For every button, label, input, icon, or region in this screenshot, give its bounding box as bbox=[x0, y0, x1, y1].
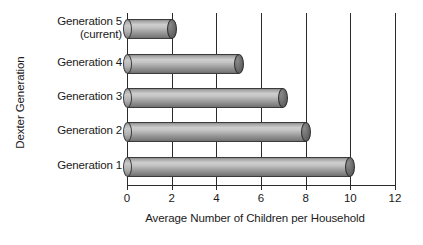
bar-body bbox=[127, 157, 350, 177]
bar-4 bbox=[127, 54, 244, 74]
category-label-generation-5: Generation 5 (current) bbox=[22, 15, 122, 41]
tick-label-2: 2 bbox=[157, 191, 187, 205]
bar-end-cap bbox=[301, 122, 311, 142]
bar-chart: Dexter Generation Generation 5 (current)… bbox=[0, 0, 423, 245]
bar-3 bbox=[127, 88, 288, 108]
category-label-generation-2: Generation 2 bbox=[22, 124, 122, 137]
tick-label-6: 6 bbox=[246, 191, 276, 205]
bar-left-cap bbox=[123, 88, 132, 108]
category-axis-labels: Generation 5 (current) Generation 4 Gene… bbox=[24, 13, 124, 185]
tick-mark-8 bbox=[306, 185, 307, 190]
tick-label-12: 12 bbox=[380, 191, 410, 205]
bar-left-cap bbox=[123, 157, 132, 177]
bar-left-cap bbox=[123, 54, 132, 74]
bar-body bbox=[127, 88, 283, 108]
tick-mark-0 bbox=[127, 185, 128, 190]
bar-body bbox=[127, 19, 172, 39]
bar-1 bbox=[127, 157, 355, 177]
x-axis-title: Average Number of Children per Household bbox=[90, 212, 420, 224]
bar-end-cap bbox=[234, 54, 244, 74]
category-label-generation-3: Generation 3 bbox=[22, 90, 122, 103]
category-label-generation-1: Generation 1 bbox=[22, 159, 122, 172]
bar-end-cap bbox=[167, 19, 177, 39]
bar-body bbox=[127, 54, 239, 74]
tick-mark-4 bbox=[216, 185, 217, 190]
tick-label-8: 8 bbox=[291, 191, 321, 205]
bar-5 bbox=[127, 19, 177, 39]
x-axis-ticks: 024681012 bbox=[127, 185, 397, 213]
tick-mark-12 bbox=[395, 185, 396, 190]
tick-label-4: 4 bbox=[201, 191, 231, 205]
tick-mark-6 bbox=[261, 185, 262, 190]
tick-label-10: 10 bbox=[335, 191, 365, 205]
plot-area bbox=[127, 13, 395, 185]
bar-2 bbox=[127, 122, 311, 142]
tick-mark-2 bbox=[172, 185, 173, 190]
bar-end-cap bbox=[278, 88, 288, 108]
category-label-generation-4: Generation 4 bbox=[22, 56, 122, 69]
tick-label-0: 0 bbox=[112, 191, 142, 205]
tick-mark-10 bbox=[350, 185, 351, 190]
gridline-12 bbox=[395, 13, 396, 185]
bar-body bbox=[127, 122, 306, 142]
bar-end-cap bbox=[345, 157, 355, 177]
